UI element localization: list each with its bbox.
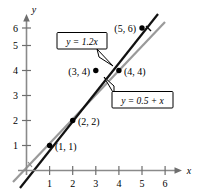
data-point-1-1 <box>47 143 52 148</box>
y-tick-label-3: 3 <box>13 90 18 101</box>
callout-equation-0-5-plus-x: y = 0.5 + x <box>104 77 173 108</box>
data-point-3-4 <box>93 68 98 73</box>
data-point-label-5-6: (5, 6) <box>114 23 136 35</box>
x-tick-labels: 1 2 3 4 5 6 <box>47 178 168 189</box>
x-tick-label-3: 3 <box>93 178 98 189</box>
x-axis-label: x <box>186 165 192 176</box>
plot-canvas: 1 2 3 4 5 6 1 2 3 4 5 6 x y (1, <box>0 0 197 193</box>
x-tick-label-1: 1 <box>47 178 52 189</box>
x-tick-label-5: 5 <box>140 178 145 189</box>
callout-equation-1-2x: y = 1.2x <box>57 33 113 67</box>
callout-1-tail <box>97 49 113 66</box>
y-axis-arrowhead <box>23 14 30 22</box>
y-tick-label-2: 2 <box>13 115 18 126</box>
scatter-plot-figure: 1 2 3 4 5 6 1 2 3 4 5 6 x y (1, <box>0 0 197 193</box>
callout-2-label: y = 0.5 + x <box>120 96 164 106</box>
data-point-5-6 <box>139 25 144 30</box>
data-point-4-4 <box>116 68 121 73</box>
x-tick-label-6: 6 <box>163 178 168 189</box>
x-axis-arrowhead <box>175 167 183 174</box>
y-tick-label-6: 6 <box>13 23 18 34</box>
callout-1-label: y = 1.2x <box>65 37 98 47</box>
data-point-label-1-1: (1, 1) <box>55 141 77 153</box>
y-tick-label-5: 5 <box>13 40 18 51</box>
y-tick-label-1: 1 <box>13 140 18 151</box>
data-point-label-3-4: (3, 4) <box>68 66 90 78</box>
x-tick-label-4: 4 <box>116 178 121 189</box>
data-point-label-4-4: (4, 4) <box>124 66 146 78</box>
x-tick-label-2: 2 <box>70 178 75 189</box>
y-tick-labels: 1 2 3 4 5 6 <box>13 23 18 152</box>
y-tick-label-4: 4 <box>13 65 18 76</box>
data-point-label-2-2: (2, 2) <box>78 116 100 128</box>
y-axis-label: y <box>31 4 37 15</box>
data-point-2-2 <box>70 118 75 123</box>
